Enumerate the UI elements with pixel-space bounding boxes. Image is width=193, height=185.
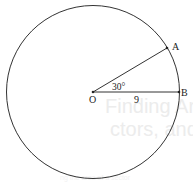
- point-O: [92, 91, 95, 94]
- label-B: B: [181, 87, 188, 98]
- point-A: [166, 47, 169, 50]
- angle-label: 30°: [112, 82, 126, 92]
- length-label-OB: 9: [134, 94, 139, 105]
- label-O: O: [89, 94, 96, 105]
- radius-OA: [93, 48, 167, 92]
- point-B: [178, 91, 181, 94]
- circle-diagram: O A B 30° 9: [0, 0, 193, 185]
- label-A: A: [172, 41, 180, 52]
